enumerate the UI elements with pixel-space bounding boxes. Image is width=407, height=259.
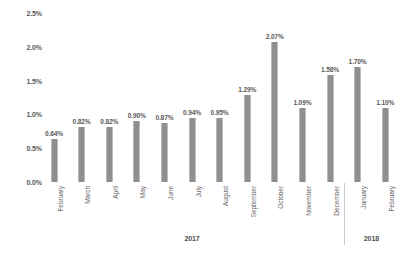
- bar-value-label: 1.10%: [376, 99, 394, 106]
- x-axis-category-label: April: [112, 186, 119, 199]
- bar-value-label: 2.07%: [266, 33, 284, 40]
- bar-chart: 0.0%0.5%1.0%1.5%2.0%2.5% 0.64%February0.…: [0, 0, 407, 259]
- bar-value-label: 1.70%: [349, 58, 367, 65]
- bar-value-label: 1.09%: [293, 99, 311, 106]
- x-axis-category-label: October: [277, 186, 284, 209]
- bar[interactable]: [51, 139, 58, 182]
- bar-value-label: 0.64%: [45, 130, 63, 137]
- bar-value-label: 0.90%: [128, 112, 146, 119]
- x-axis-category-label: December: [333, 186, 340, 216]
- x-axis-category-label: August: [222, 186, 229, 206]
- x-axis-group-label: 2017: [184, 235, 199, 242]
- x-axis-category-label: November: [305, 186, 312, 216]
- bar-value-label: 0.82%: [100, 118, 118, 125]
- bar[interactable]: [354, 67, 361, 182]
- bar[interactable]: [78, 127, 85, 182]
- bar-value-label: 0.95%: [211, 109, 229, 116]
- bar[interactable]: [327, 75, 334, 182]
- bar[interactable]: [271, 42, 278, 182]
- bar[interactable]: [133, 121, 140, 182]
- x-axis-category-label: June: [167, 186, 174, 200]
- plot-area: 0.64%February0.82%March0.82%April0.90%Ma…: [0, 0, 407, 259]
- x-axis-group-label: 2018: [364, 235, 379, 242]
- x-axis-category-label: February: [388, 186, 395, 212]
- bar[interactable]: [161, 123, 168, 182]
- x-axis-category-label: January: [360, 186, 367, 209]
- x-axis-category-label: February: [57, 186, 64, 212]
- bar[interactable]: [189, 118, 196, 182]
- bar[interactable]: [382, 108, 389, 182]
- bar-value-label: 0.82%: [73, 118, 91, 125]
- bar[interactable]: [244, 95, 251, 182]
- bar[interactable]: [299, 108, 306, 182]
- x-axis-category-label: May: [139, 186, 146, 198]
- bar-value-label: 0.87%: [155, 114, 173, 121]
- year-separator: [344, 183, 345, 245]
- x-axis-category-label: July: [195, 186, 202, 197]
- bar-value-label: 0.94%: [183, 109, 201, 116]
- bar-value-label: 1.29%: [238, 86, 256, 93]
- bar-value-label: 1.58%: [321, 66, 339, 73]
- bar[interactable]: [106, 127, 113, 182]
- x-axis-category-label: September: [250, 186, 257, 217]
- bar[interactable]: [216, 118, 223, 182]
- x-axis-category-label: March: [84, 186, 91, 204]
